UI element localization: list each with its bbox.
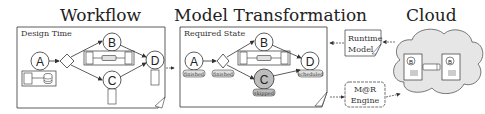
mar-engine-box: M@R Engine [345, 82, 385, 107]
queue-icon [423, 64, 440, 70]
vm-with-database-icon [22, 71, 56, 86]
node-c: C [103, 71, 121, 89]
svg-text:M@R: M@R [354, 85, 377, 94]
workflow-subtitle: Design Time [21, 29, 72, 38]
vm-pair-with-queue-icon [238, 51, 290, 65]
model-transformation-subtitle: Required State [184, 29, 245, 38]
vm-icon [151, 70, 159, 85]
svg-text:Engine: Engine [351, 96, 380, 105]
svg-text:A: A [190, 55, 198, 69]
workflow-panel: Design Time A B [17, 27, 165, 108]
node-d: D [146, 51, 164, 69]
svg-text:C: C [108, 74, 117, 88]
node-b: B [103, 33, 121, 51]
svg-text:Model: Model [348, 45, 374, 54]
svg-text:B: B [108, 36, 116, 50]
diagram-canvas: Design Time A B [0, 0, 485, 114]
svg-text:finished: finished [213, 71, 234, 77]
vm-icon [108, 89, 116, 104]
svg-text:B: B [409, 59, 413, 65]
node-c-skipped: C skipped [253, 69, 275, 97]
runtime-model-box: Runtime Model [345, 30, 383, 56]
svg-text:D: D [151, 54, 160, 68]
svg-text:Runtime: Runtime [348, 34, 383, 43]
svg-text:B: B [260, 36, 268, 50]
node-b: B [255, 33, 273, 51]
svg-text:scheduled: scheduled [298, 71, 325, 77]
vm-pair-with-queue-icon [84, 51, 134, 65]
model-transformation-panel: Required State A finished finished B [180, 27, 327, 107]
cloud-shape: B B [394, 29, 483, 93]
node-a: A [31, 52, 49, 70]
engine-to-cloud-arrow [386, 94, 400, 97]
svg-text:C: C [260, 73, 269, 87]
svg-text:B: B [448, 59, 452, 65]
svg-text:D: D [306, 55, 315, 69]
svg-text:finished: finished [184, 71, 205, 77]
node-a-finished: A finished [183, 52, 205, 77]
svg-text:A: A [36, 55, 44, 69]
svg-text:skipped: skipped [254, 90, 275, 97]
